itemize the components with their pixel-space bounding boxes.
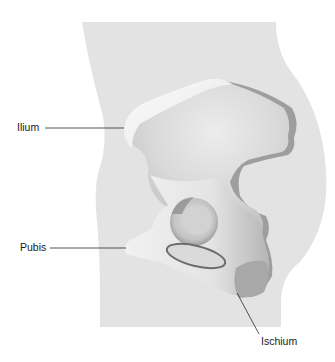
label-ilium: Ilium: [17, 122, 39, 133]
label-ischium: Ischium: [261, 336, 297, 347]
acetabulum-inner: [182, 205, 212, 235]
hip-bone-diagram: [0, 0, 335, 362]
label-pubis: Pubis: [20, 242, 46, 253]
ischial-tuberosity: [234, 261, 268, 297]
